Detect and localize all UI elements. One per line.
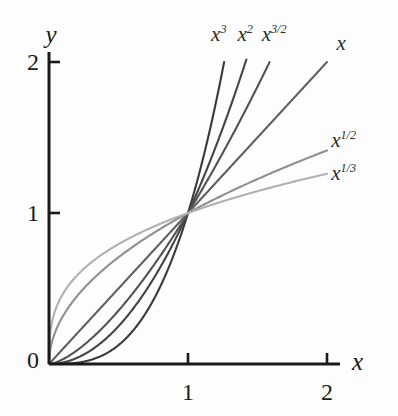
y-tick-label-2: 2	[27, 50, 39, 74]
power-functions-figure: 12120yxx3x2x3/2xx1/2x1/3	[0, 0, 398, 416]
curves-group	[49, 60, 327, 364]
curve-x--1-3-	[49, 174, 327, 364]
y-tick-label-1: 1	[27, 201, 39, 225]
x-tick-label-1: 1	[182, 380, 194, 404]
curve-x--3-2-	[49, 62, 270, 364]
x-axis-label: x	[352, 349, 363, 374]
curve-x-3	[49, 62, 224, 364]
plot-canvas	[0, 0, 398, 416]
curve-label-x--3-2-: x3/2	[262, 24, 287, 45]
curve-label-x-3: x3	[211, 24, 226, 45]
origin-label: 0	[27, 348, 39, 372]
curve-label-x--1-2-: x1/2	[331, 130, 356, 151]
y-axis-label: y	[46, 22, 57, 47]
curve-label-x: x	[336, 33, 345, 54]
curve-label-x-2: x2	[237, 24, 252, 45]
curve-x--1-2-	[49, 150, 327, 364]
curve-x-2	[49, 60, 246, 364]
curve-label-x--1-3-: x1/3	[331, 163, 356, 184]
x-tick-label-2: 2	[321, 380, 333, 404]
